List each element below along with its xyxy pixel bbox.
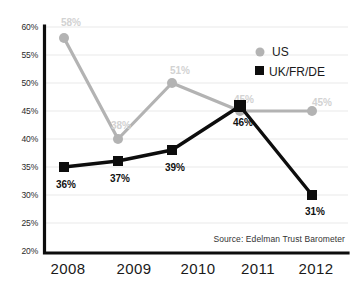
legend-label-uk-fr-de: UK/FR/DE xyxy=(269,65,325,79)
y-tick-label: 25% xyxy=(22,218,39,228)
legend-item-us[interactable]: US xyxy=(256,45,289,59)
gridlines xyxy=(44,27,348,223)
series-us-point xyxy=(113,134,123,144)
data-label-us: 58% xyxy=(61,17,81,28)
y-tick-label: 45% xyxy=(22,106,39,116)
y-axis-ticks: 60% 55% 50% 45% 40% 35% 30% 25% 20% xyxy=(22,22,39,256)
x-tick-label: 2010 xyxy=(181,260,216,277)
series-uk-fr-de-point xyxy=(234,100,246,112)
y-tick-label: 60% xyxy=(22,22,39,32)
y-tick-label: 30% xyxy=(22,190,39,200)
series-uk-fr-de-line xyxy=(64,106,312,195)
data-label-uk-fr-de: 37% xyxy=(110,173,130,184)
legend-label-us: US xyxy=(272,45,289,59)
series-uk-fr-de-point xyxy=(113,156,123,166)
series-uk-fr-de-point xyxy=(59,162,69,172)
series-us-point xyxy=(167,78,177,88)
trust-barometer-line-chart: 60% 55% 50% 45% 40% 35% 30% 25% 20% 58% … xyxy=(0,0,358,292)
x-axis-ticks: 2008 2009 2010 2011 2012 xyxy=(51,260,334,277)
series-uk-fr-de-point xyxy=(167,145,177,155)
chart-canvas: 60% 55% 50% 45% 40% 35% 30% 25% 20% 58% … xyxy=(0,0,358,292)
series-us-point xyxy=(59,33,69,43)
data-label-uk-fr-de: 39% xyxy=(165,162,185,173)
y-tick-label: 35% xyxy=(22,162,39,172)
data-label-us: 51% xyxy=(170,65,190,76)
data-label-uk-fr-de: 36% xyxy=(56,179,76,190)
data-label-us: 38% xyxy=(111,120,131,131)
circle-marker-icon xyxy=(256,48,265,57)
data-label-uk-fr-de: 31% xyxy=(305,206,325,217)
y-tick-label: 50% xyxy=(22,78,39,88)
square-marker-icon xyxy=(255,66,264,75)
data-label-us: 45% xyxy=(312,97,332,108)
y-tick-label: 55% xyxy=(22,50,39,60)
data-label-uk-fr-de: 46% xyxy=(233,117,253,128)
x-tick-label: 2011 xyxy=(241,260,275,277)
y-tick-label: 40% xyxy=(22,134,39,144)
legend-item-uk-fr-de[interactable]: UK/FR/DE xyxy=(255,65,325,79)
series-uk-fr-de-point xyxy=(307,190,317,200)
x-tick-label: 2009 xyxy=(117,260,152,277)
series-uk-fr-de xyxy=(59,100,317,200)
x-tick-label: 2012 xyxy=(299,260,334,277)
chart-legend: US UK/FR/DE xyxy=(255,45,325,79)
source-annotation: Source: Edelman Trust Barometer xyxy=(213,234,345,244)
x-tick-label: 2008 xyxy=(51,260,86,277)
y-tick-label: 20% xyxy=(22,246,39,256)
